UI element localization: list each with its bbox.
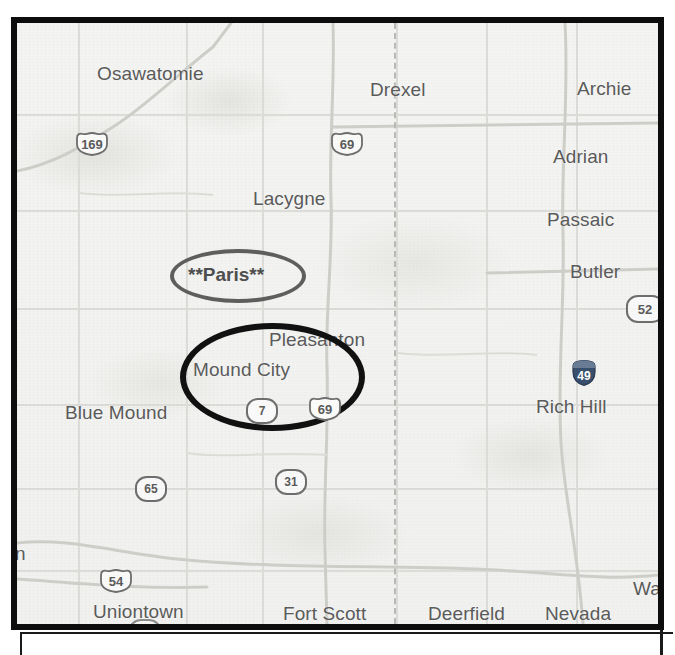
route-number: 69 xyxy=(318,403,332,416)
route-shield-state-65[interactable]: 65 xyxy=(135,476,167,502)
lower-panel xyxy=(20,632,673,655)
city-label-lacygne: Lacygne xyxy=(253,188,326,210)
route-shield-state-31[interactable]: 31 xyxy=(275,469,307,495)
road-network xyxy=(17,23,658,624)
route-number: 54 xyxy=(109,575,123,588)
route-shield-us-69-south[interactable]: 69 xyxy=(307,396,343,422)
city-label-mound-city: Mound City xyxy=(193,359,290,381)
city-label-archie: Archie xyxy=(577,78,631,100)
city-label-passaic: Passaic xyxy=(547,209,614,231)
route-shield-us-69-north[interactable]: 69 xyxy=(329,131,365,157)
city-label-clipped-left: n xyxy=(15,543,26,565)
route-number: 65 xyxy=(144,483,157,495)
route-shield-us-54[interactable]: 54 xyxy=(98,568,134,594)
route-shield-state-52[interactable]: 52 xyxy=(626,295,664,323)
city-label-osawatomie: Osawatomie xyxy=(97,63,204,85)
city-label-rich-hill: Rich Hill xyxy=(536,396,607,418)
city-label-deerfield: Deerfield xyxy=(428,603,505,625)
city-label-fort-scott: Fort Scott xyxy=(283,603,366,625)
state-boundary-dashed-line xyxy=(394,23,396,624)
route-number: 52 xyxy=(638,303,652,316)
city-label-drexel: Drexel xyxy=(370,79,426,101)
route-number: 31 xyxy=(284,476,297,488)
page-root: Osawatomie Drexel Archie Adrian Lacygne … xyxy=(0,0,675,655)
map-frame[interactable]: Osawatomie Drexel Archie Adrian Lacygne … xyxy=(11,17,664,630)
city-label-blue-mound: Blue Mound xyxy=(65,402,167,424)
map-canvas[interactable]: Osawatomie Drexel Archie Adrian Lacygne … xyxy=(17,23,658,624)
annotation-label-paris: **Paris** xyxy=(188,264,264,286)
route-number: 69 xyxy=(340,138,354,151)
city-label-butler: Butler xyxy=(570,261,620,283)
route-shield-us-169[interactable]: 169 xyxy=(74,131,110,157)
city-label-nevada: Nevada xyxy=(545,603,611,625)
route-number: 7 xyxy=(259,405,266,417)
route-number: 49 xyxy=(577,370,590,382)
route-shield-interstate-49[interactable]: 49 xyxy=(569,359,599,387)
city-label-walker-clipped: Walk xyxy=(633,578,664,600)
route-shield-state-7[interactable]: 7 xyxy=(246,398,278,424)
route-number: 169 xyxy=(81,138,103,151)
route-shield-clipped-bottom xyxy=(129,619,161,630)
city-label-adrian: Adrian xyxy=(553,146,609,168)
